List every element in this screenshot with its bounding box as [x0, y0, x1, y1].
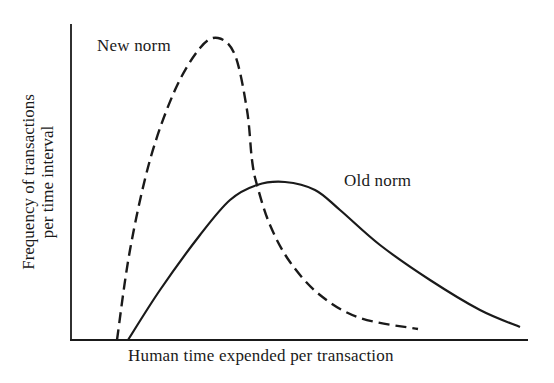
y-axis-label-line2: per time interval — [38, 32, 57, 332]
x-axis-label: Human time expended per transaction — [128, 346, 394, 366]
old-norm-label: Old norm — [344, 171, 411, 191]
y-axis-label: Frequency of transactions per time inter… — [19, 32, 57, 332]
new-norm-label: New norm — [97, 36, 171, 56]
y-axis-label-line1: Frequency of transactions — [19, 32, 38, 332]
chart-canvas — [0, 0, 554, 383]
old-norm-curve — [128, 182, 520, 340]
